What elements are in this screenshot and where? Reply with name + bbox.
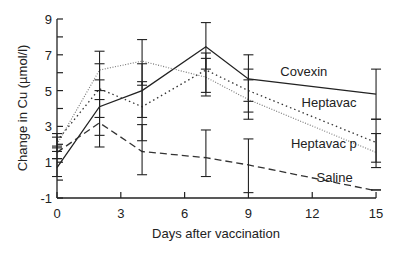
series-label-covexin: Covexin [280,64,327,79]
y-tick-label: 1 [45,155,52,170]
axes: 03691215-113579 [40,12,383,221]
y-tick-label: 5 [45,84,52,99]
x-tick-label: 15 [369,206,383,221]
y-tick-label: 3 [45,119,52,134]
y-axis-title: Change in Cu (µmol/l) [15,45,30,172]
series-label-heptavac: Heptavac [302,95,357,110]
series-labels: CovexinHeptavacHeptavac pSaline [280,64,357,185]
x-tick-label: 12 [305,206,319,221]
line-chart: 03691215-113579 CovexinHeptavacHeptavac … [0,0,399,253]
x-axis-title: Days after vaccination [152,226,280,241]
y-tick-label: 9 [45,12,52,27]
x-tick-label: 9 [245,206,252,221]
x-tick-label: 3 [117,206,124,221]
x-tick-label: 6 [181,206,188,221]
series-label-heptavac-p: Heptavac p [291,136,357,151]
y-tick-label: 7 [45,48,52,63]
y-tick-label: -1 [40,191,52,206]
x-tick-label: 0 [53,206,60,221]
series-label-saline: Saline [316,170,352,185]
